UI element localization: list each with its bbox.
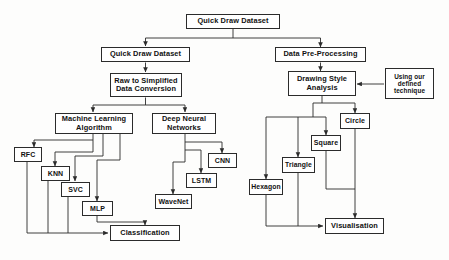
node-using-our-defined-technique[interactable]: Using our defined technique xyxy=(385,68,434,99)
node-rfc[interactable]: RFC xyxy=(14,147,42,162)
node-square[interactable]: Square xyxy=(311,135,341,151)
edge-hexagon-visualisation xyxy=(266,195,298,227)
node-hexagon[interactable]: Hexagon xyxy=(249,179,283,195)
node-root-quick-draw-dataset[interactable]: Quick Draw Dataset xyxy=(186,14,280,29)
node-svc[interactable]: SVC xyxy=(61,182,90,197)
node-raw-to-simplified-data-conversion[interactable]: Raw to Simplified Data Conversion xyxy=(110,73,182,97)
edge-square-visualisation xyxy=(326,151,355,190)
node-drawing-style-analysis[interactable]: Drawing Style Analysis xyxy=(288,71,356,96)
edge-dnn-wavenet xyxy=(173,150,185,194)
node-classification[interactable]: Classification xyxy=(110,225,180,241)
node-mlp[interactable]: MLP xyxy=(82,201,113,216)
node-quick-draw-dataset[interactable]: Quick Draw Dataset xyxy=(101,47,190,62)
node-cnn[interactable]: CNN xyxy=(208,153,237,168)
node-data-pre-processing[interactable]: Data Pre-Processing xyxy=(275,47,366,62)
node-wavenet[interactable]: WaveNet xyxy=(155,194,192,209)
node-triangle[interactable]: Triangle xyxy=(282,157,315,173)
node-circle[interactable]: Circle xyxy=(340,113,370,129)
node-knn[interactable]: KNN xyxy=(41,166,70,181)
node-lstm[interactable]: LSTM xyxy=(186,173,217,188)
node-deep-neural-networks[interactable]: Deep Neural Networks xyxy=(152,113,216,134)
edge-triangle-visualisation xyxy=(298,173,323,227)
flowchart-canvas: Quick Draw Dataset Quick Draw Dataset Da… xyxy=(0,0,449,260)
edge-mlp-classification xyxy=(97,216,145,226)
node-machine-learning-algorithm[interactable]: Machine Learning Algorithm xyxy=(55,113,133,134)
node-visualisation[interactable]: Visualisation xyxy=(325,218,384,234)
